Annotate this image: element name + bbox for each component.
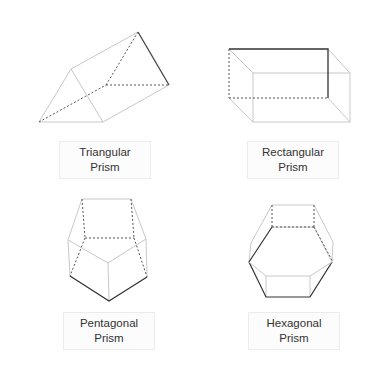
hexagonal-prism-label: Hexagonal Prism bbox=[248, 312, 340, 350]
triangular-prism-figure bbox=[39, 32, 169, 122]
pentagonal-prism-figure bbox=[68, 199, 147, 301]
label-line-2: Prism bbox=[94, 331, 123, 346]
triangular-prism-label: Triangular Prism bbox=[59, 141, 151, 179]
label-line-2: Prism bbox=[279, 331, 308, 346]
label-line-2: Prism bbox=[90, 160, 119, 175]
hexagonal-prism-figure bbox=[249, 205, 333, 297]
label-line-2: Prism bbox=[278, 160, 307, 175]
rectangular-prism-figure bbox=[229, 49, 350, 122]
label-line-1: Rectangular bbox=[262, 145, 324, 160]
label-line-1: Triangular bbox=[79, 145, 130, 160]
label-line-1: Pentagonal bbox=[80, 316, 138, 331]
rectangular-prism-label: Rectangular Prism bbox=[247, 141, 339, 179]
label-line-1: Hexagonal bbox=[267, 316, 322, 331]
pentagonal-prism-label: Pentagonal Prism bbox=[63, 312, 155, 350]
